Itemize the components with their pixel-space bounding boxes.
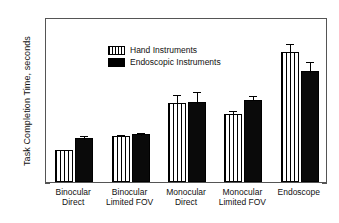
bar xyxy=(301,71,319,182)
error-bar-stem xyxy=(310,62,311,73)
y-axis-title: Task Completion Time, seconds xyxy=(22,16,32,186)
error-bar-stem xyxy=(197,92,198,104)
bar xyxy=(188,102,206,182)
chart-legend: Hand Instruments Endoscopic Instruments xyxy=(108,45,221,69)
legend-label-hand-instruments: Hand Instruments xyxy=(130,45,197,56)
legend-item-hand-instruments: Hand Instruments xyxy=(108,45,221,56)
error-bar-cap xyxy=(229,111,237,112)
error-bar-cap xyxy=(193,92,201,93)
error-bar-cap xyxy=(117,135,125,136)
bar xyxy=(132,134,150,182)
x-axis-category-line: Limited FOV xyxy=(206,197,278,207)
bar xyxy=(224,114,242,182)
error-bar-cap xyxy=(306,62,314,63)
y-axis-tick-mark-right xyxy=(322,183,327,184)
error-bar-cap xyxy=(60,150,68,151)
bar xyxy=(55,150,73,182)
error-bar-stem xyxy=(290,44,291,54)
legend-item-endoscopic-instruments: Endoscopic Instruments xyxy=(108,57,221,68)
legend-label-endoscopic-instruments: Endoscopic Instruments xyxy=(130,57,221,68)
error-bar-cap xyxy=(173,95,181,96)
y-axis-tick-mark xyxy=(45,183,50,184)
plot-area: Hand Instruments Endoscopic Instruments xyxy=(45,18,327,183)
solid-black-bar-swatch xyxy=(108,58,125,67)
bar-chart-figure: Task Completion Time, seconds 0510152025… xyxy=(0,0,339,223)
error-bar-stem xyxy=(177,95,178,105)
error-bar-cap xyxy=(249,96,257,97)
x-axis-category-label: Endoscope xyxy=(263,187,335,197)
bar xyxy=(168,103,186,182)
bar xyxy=(112,136,130,182)
error-bar-cap xyxy=(286,44,294,45)
bar xyxy=(281,52,299,182)
x-axis-category-line: Endoscope xyxy=(263,187,335,197)
bar xyxy=(244,100,262,183)
error-bar-cap xyxy=(137,133,145,134)
error-bar-cap xyxy=(80,136,88,137)
bar xyxy=(75,138,93,182)
hatched-bar-swatch xyxy=(108,46,125,55)
